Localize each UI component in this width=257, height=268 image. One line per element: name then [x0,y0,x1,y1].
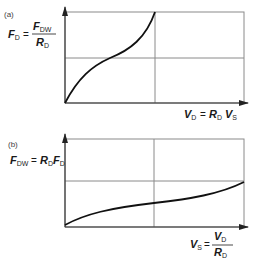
svg-text:FD: FD [53,154,65,167]
svg-text:VS: VS [225,108,237,121]
panel-b-y-label: FDW = RD FD [10,154,65,167]
svg-text:VD: VD [214,230,226,243]
svg-text:FDW: FDW [33,20,52,33]
panel-b: (b) FDW = RD FD VS = VD RD [8,134,248,259]
svg-text:FDW: FDW [10,154,29,167]
panel-b-x-label: VS = VD RD [190,230,233,259]
svg-text:VD: VD [184,108,196,121]
svg-text:RD: RD [214,246,227,259]
diagram: (a) FD = FDW RD VD = RD VS (b) [0,0,257,268]
svg-text:RD: RD [40,154,53,167]
svg-text:=: = [23,29,29,40]
svg-text:=: = [200,109,206,120]
panel-a-label: (a) [4,10,14,19]
panel-a-x-label: VD = RD VS [184,108,237,121]
svg-text:=: = [204,239,210,250]
svg-text:RD: RD [209,108,222,121]
panel-b-label: (b) [8,140,18,149]
panel-a: (a) FD = FDW RD VD = RD VS [4,7,248,121]
panel-a-y-label: FD = FDW RD [8,20,56,49]
svg-text:FD: FD [8,28,20,41]
svg-text:RD: RD [36,36,49,49]
svg-text:=: = [31,155,37,166]
svg-text:VS: VS [190,238,202,251]
